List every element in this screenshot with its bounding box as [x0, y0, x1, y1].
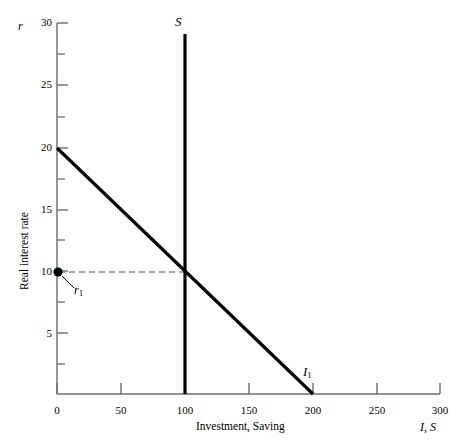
investment-saving-chart: 30 25 20 15 10 5 0 50 100 150 200 250 30…: [0, 0, 462, 445]
x-axis-title: Investment, Saving: [196, 420, 285, 432]
r1-callout-label: r1: [74, 283, 83, 298]
investment-curve-label: I1: [303, 364, 312, 380]
saving-curve-label: S: [175, 14, 182, 30]
x-tick-label-250: 250: [357, 404, 397, 416]
y-axis-minor-ticks: [57, 54, 65, 364]
x-axis-major-ticks: [57, 383, 440, 394]
r1-leader-line: [62, 276, 74, 288]
y-axis-title: Real interest rate: [18, 212, 30, 290]
x-tick-label-150: 150: [229, 404, 269, 416]
x-tick-label-50: 50: [101, 404, 141, 416]
y-axis-symbol: r: [18, 19, 23, 34]
y-tick-label-25: 25: [26, 78, 52, 90]
plot-area: [0, 0, 462, 445]
y-tick-label-30: 30: [26, 16, 52, 28]
equilibrium-rate-marker: [53, 267, 62, 276]
x-tick-label-100: 100: [165, 404, 205, 416]
x-tick-label-300: 300: [420, 404, 460, 416]
r1-callout-label-subscript: 1: [79, 288, 84, 298]
x-axis-symbol: I, S: [420, 420, 436, 435]
investment-curve-label-subscript: 1: [307, 370, 312, 380]
y-axis-major-ticks: [57, 23, 68, 333]
y-tick-label-5: 5: [26, 327, 52, 339]
x-tick-label-200: 200: [293, 404, 333, 416]
y-tick-label-20: 20: [26, 141, 52, 153]
x-tick-label-0: 0: [37, 404, 77, 416]
